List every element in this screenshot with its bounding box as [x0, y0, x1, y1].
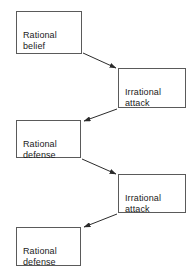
node-rational-defense-2-label: Rational defense	[23, 246, 80, 269]
arrow-attack-2-to-defense-2	[84, 214, 117, 227]
arrow-defense-1-to-attack-2	[82, 159, 116, 174]
node-irrational-attack-1-label: Irrational attack	[125, 87, 185, 110]
node-rational-belief-label: Rational belief	[23, 30, 81, 53]
node-irrational-attack-2: Irrational attack	[118, 174, 186, 213]
arrow-belief-to-attack-1	[83, 53, 116, 68]
node-rational-defense-1: Rational defense	[16, 120, 81, 158]
node-rational-defense-2: Rational defense	[16, 227, 81, 266]
flowchart-diagram: Rational belief Irrational attack Ration…	[0, 0, 193, 280]
arrow-attack-1-to-defense-1	[84, 109, 117, 121]
node-irrational-attack-2-label: Irrational attack	[125, 193, 185, 216]
node-irrational-attack-1: Irrational attack	[118, 68, 186, 108]
node-rational-defense-1-label: Rational defense	[23, 139, 80, 162]
node-rational-belief: Rational belief	[16, 11, 82, 54]
